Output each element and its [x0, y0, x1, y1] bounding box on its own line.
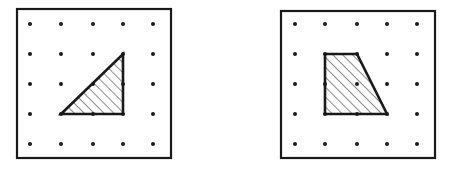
grid-peg [385, 22, 389, 26]
grid-peg [59, 142, 63, 146]
grid-peg [121, 142, 125, 146]
grid-peg [355, 82, 359, 86]
grid-peg [28, 22, 32, 26]
grid-peg [28, 142, 32, 146]
grid-peg [323, 142, 327, 146]
grid-peg [293, 82, 297, 86]
grid-peg [121, 22, 125, 26]
grid-peg [28, 82, 32, 86]
grid-peg [91, 22, 95, 26]
grid-peg [28, 52, 32, 56]
grid-peg [415, 112, 419, 116]
trapezoid-geoboard [281, 11, 435, 158]
geoboard-diagram [0, 0, 450, 169]
grid-peg [59, 82, 63, 86]
grid-peg [323, 22, 327, 26]
grid-peg [151, 22, 155, 26]
grid-peg [415, 22, 419, 26]
grid-peg [415, 82, 419, 86]
grid-peg [385, 82, 389, 86]
grid-peg [355, 142, 359, 146]
grid-peg [151, 82, 155, 86]
triangle-geoboard [17, 9, 171, 158]
grid-peg [415, 142, 419, 146]
grid-peg [293, 52, 297, 56]
grid-peg [385, 52, 389, 56]
grid-peg [415, 52, 419, 56]
grid-peg [293, 22, 297, 26]
grid-peg [59, 22, 63, 26]
grid-peg [28, 112, 32, 116]
grid-peg [151, 52, 155, 56]
grid-peg [355, 22, 359, 26]
grid-peg [293, 142, 297, 146]
grid-peg [91, 52, 95, 56]
grid-peg [293, 112, 297, 116]
grid-peg [385, 142, 389, 146]
grid-peg [59, 52, 63, 56]
grid-peg [151, 112, 155, 116]
grid-peg [151, 142, 155, 146]
grid-peg [91, 142, 95, 146]
